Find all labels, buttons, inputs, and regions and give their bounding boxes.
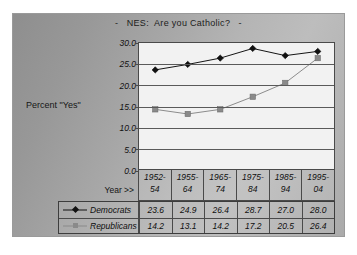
y-axis-label: Percent "Yes" [26,100,81,110]
diamond-marker-icon [62,205,88,215]
gridline [139,64,334,65]
y-tick-label: 10.0 [119,123,136,133]
table-cell: 20.5 [269,219,302,234]
square-marker-icon [315,55,320,60]
plot-area: 30.025.020.015.010.05.00.0 [138,42,335,170]
diamond-marker-icon [152,67,158,73]
square-marker-icon [250,94,255,99]
table-row: Republicans 14.2 13.1 14.2 17.2 20.5 26.… [59,218,334,234]
y-tick-mark [135,64,139,65]
y-tick-mark [135,149,139,150]
gridline [139,107,334,108]
diamond-marker-icon [315,48,321,54]
y-tick-label: 30.0 [119,38,136,48]
table-cell: 14.2 [204,219,237,234]
table-row: Democrats 23.6 24.9 26.4 28.7 27.0 28.0 [59,202,334,218]
category-cell: 1975- 84 [236,170,269,200]
gridline [139,128,334,129]
diamond-marker-icon [250,45,256,51]
category-cell: 1995- 04 [301,170,334,200]
square-marker-icon [185,111,190,116]
table-cell: 17.2 [237,219,270,234]
data-table: Democrats 23.6 24.9 26.4 28.7 27.0 28.0 … [58,201,335,234]
table-cell: 26.4 [302,219,335,234]
x-axis-label: Year >> [74,185,134,195]
chart-title: - NES: Are you Catholic? - [12,18,345,28]
category-cell: 1952- 54 [139,170,171,200]
series-line-democrats [155,48,318,69]
category-header-row: 1952- 54 1955- 64 1965- 74 1975- 84 1985… [138,170,335,201]
category-cell: 1985- 94 [269,170,302,200]
table-cell: 24.9 [172,202,205,218]
legend-entry-republicans: Republicans [59,219,139,234]
y-tick-mark [135,107,139,108]
y-tick-mark [135,43,139,44]
chart-panel: - NES: Are you Catholic? - Percent "Yes"… [12,13,345,237]
category-cell: 1955- 64 [171,170,204,200]
table-cell: 28.0 [302,202,335,218]
table-cell: 23.6 [139,202,172,218]
y-tick-label: 15.0 [119,102,136,112]
table-cell: 14.2 [139,219,172,234]
table-cell: 26.4 [204,202,237,218]
table-cell: 13.1 [172,219,205,234]
series-name: Democrats [88,205,131,215]
series-name: Republicans [88,221,137,231]
gridline [139,149,334,150]
table-cell: 28.7 [237,202,270,218]
diamond-marker-icon [282,52,288,58]
y-tick-mark [135,85,139,86]
y-tick-mark [135,128,139,129]
table-cell: 27.0 [269,202,302,218]
y-tick-label: 20.0 [119,81,136,91]
square-marker-icon [62,221,88,231]
diamond-marker-icon [217,55,223,61]
y-tick-label: 25.0 [119,59,136,69]
gridline [139,85,334,86]
legend-entry-democrats: Democrats [59,202,139,218]
category-cell: 1965- 74 [203,170,236,200]
